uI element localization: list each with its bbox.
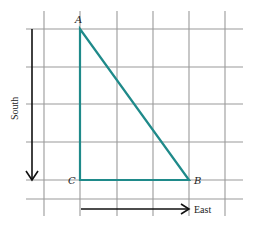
triangle-grid-diagram: A C B South East	[0, 0, 255, 229]
grid	[26, 11, 243, 216]
south-label: South	[9, 97, 20, 120]
vertex-label-c: C	[68, 175, 76, 186]
vertex-label-b: B	[193, 175, 201, 186]
east-label: East	[194, 204, 211, 215]
east-arrow	[81, 204, 189, 214]
vertex-label-a: A	[74, 14, 82, 25]
